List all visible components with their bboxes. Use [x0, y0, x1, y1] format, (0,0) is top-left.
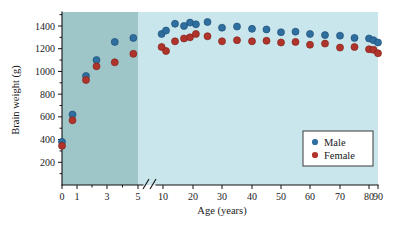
data-point [249, 25, 256, 32]
data-point [322, 32, 329, 39]
y-tick-label-600: 600 [40, 111, 55, 122]
x-tick-label-50: 50 [276, 191, 286, 202]
data-point [337, 44, 344, 51]
data-point [204, 19, 211, 26]
data-point [130, 34, 137, 41]
data-point [219, 38, 226, 45]
data-point [83, 76, 90, 83]
data-point [278, 29, 285, 36]
x-tick-label-5: 5 [136, 191, 141, 202]
data-point [192, 30, 199, 37]
data-point [307, 30, 314, 37]
data-point [234, 23, 241, 30]
data-point [263, 37, 270, 44]
x-tick-label-1: 1 [75, 191, 80, 202]
legend: Male Female [303, 131, 373, 166]
legend-label-female: Female [324, 150, 355, 161]
x-axis-title: Age (years) [197, 205, 247, 217]
data-point [163, 47, 170, 54]
x-tick-label-70: 70 [335, 191, 345, 202]
data-point [172, 38, 179, 45]
data-point [130, 50, 137, 57]
x-tick-label-30: 30 [217, 191, 227, 202]
y-tick-label-400: 400 [40, 134, 55, 145]
data-point [192, 21, 199, 28]
y-tick-label-1000: 1000 [35, 66, 55, 77]
data-point [292, 28, 299, 35]
data-point [172, 20, 179, 27]
early-childhood-band [62, 12, 138, 185]
y-tick-label-1200: 1200 [35, 43, 55, 54]
data-point [69, 117, 76, 124]
x-axis-tick-marks [62, 185, 378, 189]
x-tick-label-0: 0 [60, 191, 65, 202]
data-point [59, 142, 66, 149]
x-tick-label-60: 60 [305, 191, 315, 202]
data-point [111, 59, 118, 66]
data-point [234, 37, 241, 44]
x-tick-label-10: 10 [158, 191, 168, 202]
data-point [263, 26, 270, 33]
data-point [322, 40, 329, 47]
chart-canvas: 200400600800100012001400 013510203040506… [0, 0, 416, 232]
data-point [93, 63, 100, 70]
y-axis-title: Brain weight (g) [10, 65, 22, 135]
y-axis-tick-marks [58, 15, 62, 174]
x-tick-label-90: 90 [373, 191, 383, 202]
data-point [249, 38, 256, 45]
x-axis-tick-labels: 0135102030405060708090 [60, 191, 384, 202]
legend-marker-female [312, 152, 318, 158]
data-point [163, 27, 170, 34]
data-point [204, 33, 211, 40]
y-tick-label-800: 800 [40, 89, 55, 100]
data-point [337, 32, 344, 39]
x-tick-label-3: 3 [105, 191, 110, 202]
data-point [111, 38, 118, 45]
legend-label-male: Male [324, 137, 346, 148]
data-point [375, 50, 382, 57]
data-point [278, 39, 285, 46]
data-point [375, 39, 382, 46]
data-point [351, 34, 358, 41]
data-point [307, 41, 314, 48]
data-point [292, 38, 299, 45]
brain-weight-scatter-chart: 200400600800100012001400 013510203040506… [0, 0, 416, 232]
y-axis-tick-labels: 200400600800100012001400 [35, 21, 55, 168]
x-tick-label-40: 40 [247, 191, 257, 202]
y-tick-label-200: 200 [40, 157, 55, 168]
data-point [351, 44, 358, 51]
y-tick-label-1400: 1400 [35, 21, 55, 32]
data-point [219, 24, 226, 31]
legend-marker-male [312, 139, 318, 145]
x-tick-label-20: 20 [188, 191, 198, 202]
